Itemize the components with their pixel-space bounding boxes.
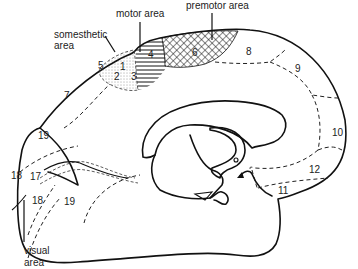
- anterior-commissure: [234, 158, 238, 162]
- boundary-10-12: [318, 147, 342, 150]
- area-1: 1: [120, 61, 126, 72]
- visual-label-2: area: [24, 257, 44, 268]
- area-4: 4: [148, 49, 154, 60]
- area-11: 11: [278, 185, 289, 196]
- premotor-area-label: premotor area: [186, 0, 249, 11]
- brain-medial-diagram: motor area premotor area somesthetic are…: [0, 0, 358, 269]
- motor-area-label: motor area: [116, 8, 165, 19]
- boundary-18-19-upper: [20, 146, 78, 172]
- area-10: 10: [332, 127, 344, 138]
- diagram-canvas: motor area premotor area somesthetic are…: [0, 0, 358, 269]
- boundary-18-lower: [28, 185, 55, 235]
- visual-label-1: visual: [24, 245, 50, 256]
- calcarine-dots-2: [40, 170, 138, 184]
- boundary-9-10: [312, 95, 320, 150]
- boundary-12-11: [258, 178, 328, 188]
- area-8: 8: [246, 46, 252, 57]
- area-18-lower: 18: [32, 195, 44, 206]
- thalamus: [152, 135, 223, 199]
- boundary-7-19: [64, 84, 110, 128]
- area-6: 6: [192, 47, 198, 58]
- brainstem-junction: [240, 171, 272, 196]
- boundary-19-lower-right: [84, 175, 140, 223]
- somesthetic-label-1: somesthetic: [54, 29, 107, 40]
- area-19-upper: 19: [38, 130, 50, 141]
- boundary-12-upper: [250, 150, 318, 170]
- area-18-upper: 18: [11, 170, 23, 181]
- area-2: 2: [114, 71, 120, 82]
- corpus-callosum: [142, 101, 285, 158]
- boundary-8-9: [270, 62, 338, 98]
- area-12: 12: [309, 164, 321, 175]
- area-9: 9: [295, 63, 301, 74]
- area-19-lower: 19: [64, 196, 76, 207]
- premotor-region: [162, 31, 238, 68]
- area-7: 7: [64, 90, 70, 101]
- calcarine-dots-1: [40, 162, 135, 178]
- area-5: 5: [98, 60, 104, 71]
- hypothalamus: [210, 192, 228, 205]
- somesthetic-label-2: area: [54, 40, 74, 51]
- area-17: 17: [30, 171, 42, 182]
- area-3: 3: [131, 71, 137, 82]
